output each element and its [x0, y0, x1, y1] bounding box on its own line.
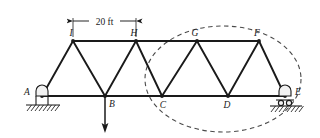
- node-label-d: D: [223, 100, 231, 110]
- truss-diagram-canvas: 20 ft: [0, 0, 320, 138]
- pin-support-a-body: [36, 85, 48, 96]
- dimension-label: 20 ft: [96, 17, 114, 27]
- node-label-f: F: [253, 28, 260, 38]
- node-label-e: E: [294, 87, 301, 97]
- node-label-c: C: [160, 100, 167, 110]
- truss-figure: 20 ft: [0, 0, 320, 138]
- joint-g: [195, 39, 199, 43]
- roller-support-e-roller-right: [286, 100, 291, 105]
- pin-support-a-hatching: [27, 105, 60, 111]
- node-label-a: A: [23, 87, 30, 97]
- load-arrow-b: [102, 96, 109, 133]
- dimension-20ft: 20 ft: [73, 14, 136, 37]
- pin-support-a: [26, 85, 60, 111]
- roller-support-e-roller-left: [278, 100, 283, 105]
- roller-support-e-body: [279, 85, 291, 96]
- member-diagonal-ib: [73, 41, 105, 96]
- node-label-g: G: [192, 28, 199, 38]
- truss-members: [42, 41, 285, 96]
- joint-f: [257, 39, 261, 43]
- node-label-h: H: [130, 28, 139, 38]
- member-diagonal-df: [228, 41, 259, 96]
- member-diagonal-bh: [105, 41, 136, 96]
- joint-i: [71, 39, 75, 43]
- joint-c: [160, 94, 164, 98]
- joint-h: [134, 39, 138, 43]
- joint-d: [226, 94, 230, 98]
- member-diagonal-cg: [162, 41, 197, 96]
- member-diagonal-gd: [197, 41, 228, 96]
- node-label-b: B: [109, 99, 115, 109]
